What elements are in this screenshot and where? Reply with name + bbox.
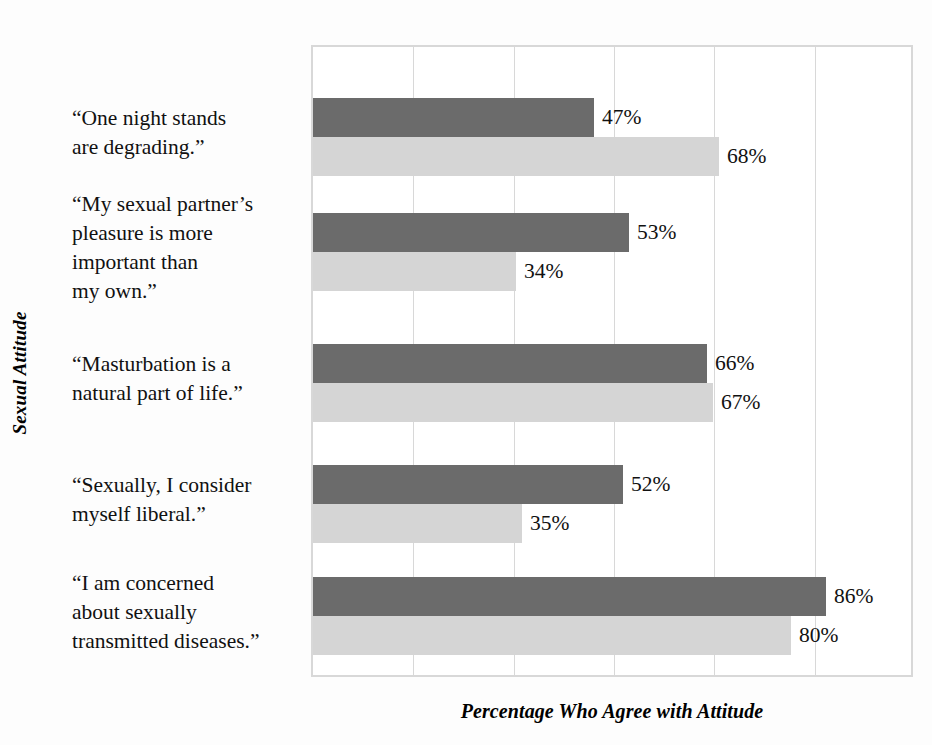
category-label-line: “Sexually, I consider [72,471,310,500]
category-label-line: myself liberal.” [72,500,310,529]
bar-value-label: 67% [721,383,760,422]
bar-value-label: 86% [834,577,873,616]
category-label: “Sexually, I considermyself liberal.” [72,471,310,529]
category-label-line: my own.” [72,277,310,306]
y-axis-title: Sexual Attitude [0,0,40,745]
category-label: “Masturbation is anatural part of life.” [72,350,310,408]
bar [313,577,826,616]
bar [313,213,629,252]
bar-value-label: 35% [530,504,569,543]
bar-group: 47%68%53%34%66%67%52%35%86%80% [313,47,911,675]
category-label-line: important than [72,248,310,277]
bar [313,98,594,137]
bar [313,465,623,504]
category-label-line: transmitted diseases.” [72,627,310,656]
bar-value-label: 52% [631,465,670,504]
category-label-line: “Masturbation is a [72,350,310,379]
bar [313,344,707,383]
category-label-line: “One night stands [72,104,310,133]
bar-value-label: 66% [715,344,754,383]
category-label: “My sexual partner’spleasure is moreimpo… [72,190,310,306]
bar-value-label: 53% [637,213,676,252]
bar-value-label: 80% [799,616,838,655]
category-label-line: natural part of life.” [72,379,310,408]
category-label-line: “My sexual partner’s [72,190,310,219]
bar-value-label: 68% [727,137,766,176]
category-label-line: are degrading.” [72,133,310,162]
bar-value-label: 34% [524,252,563,291]
category-label: “I am concernedabout sexuallytransmitted… [72,569,310,656]
category-label-line: “I am concerned [72,569,310,598]
bar [313,616,791,655]
category-label-line: about sexually [72,598,310,627]
bar [313,252,516,291]
x-axis-title: Percentage Who Agree with Attitude [311,700,913,723]
category-label: “One night standsare degrading.” [72,104,310,162]
y-axis-title-text: Sexual Attitude [9,311,31,434]
plot-area: 47%68%53%34%66%67%52%35%86%80% MenWomen [311,45,913,677]
bar [313,383,713,422]
bar [313,137,719,176]
category-label-line: pleasure is more [72,219,310,248]
bar-value-label: 47% [602,98,641,137]
bar [313,504,522,543]
bar-chart: Sexual Attitude “One night standsare deg… [0,0,932,745]
